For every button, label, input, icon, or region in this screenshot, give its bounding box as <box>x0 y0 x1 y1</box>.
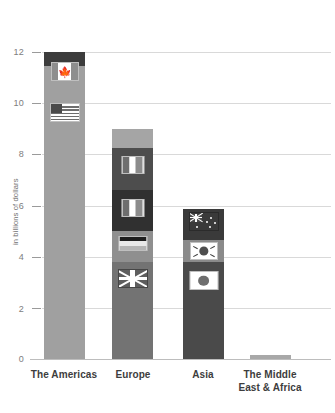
y-tick-mark-2 <box>32 308 41 309</box>
y-tick-label-2: 2 <box>0 305 24 314</box>
au-flag-union-jack <box>190 214 202 222</box>
au-flag-icon <box>189 212 219 231</box>
stacked-bar-chart: in billions of dollars 12 10 8 6 4 2 0 <box>0 0 335 413</box>
kr-flag-trigram <box>210 253 214 256</box>
fr-flag-band <box>122 200 129 216</box>
bar-asia[interactable] <box>183 209 224 359</box>
fr-flag-icon <box>121 199 144 217</box>
y-tick-label-8: 8 <box>0 150 24 159</box>
au-flag-star <box>196 226 198 228</box>
de-flag-row <box>119 246 146 250</box>
fr-flag-band <box>136 200 143 216</box>
jp-flag-icon <box>189 271 218 290</box>
bar-europe[interactable] <box>112 129 153 359</box>
ca-flag-icon: 🍁 <box>51 62 79 81</box>
bar-the-americas[interactable]: 🍁 <box>44 52 85 359</box>
us-flag-icon <box>50 103 80 122</box>
x-label-the-middle-east-and-africa: The Middle East & Africa <box>215 369 325 394</box>
plot-area: 🍁 <box>30 0 335 413</box>
y-tick-label-10: 10 <box>0 99 24 108</box>
it-flag-band <box>136 157 143 173</box>
de-flag-icon <box>118 236 147 251</box>
y-tick-label-6: 6 <box>0 202 24 211</box>
gridline-6 <box>42 206 331 207</box>
x-label-mea-line1: The Middle <box>215 369 325 382</box>
us-flag-stripe <box>51 119 79 121</box>
y-tick-mark-4 <box>32 257 41 258</box>
gridline-12 <box>42 52 331 53</box>
kr-flag-icon <box>190 242 218 260</box>
y-tick-label-0: 0 <box>0 355 24 364</box>
jp-flag-disc <box>198 275 209 286</box>
au-flag-star <box>209 226 211 228</box>
maple-leaf-icon: 🍁 <box>58 66 72 77</box>
gridline-8 <box>42 154 331 155</box>
kr-flag-taeguk <box>199 247 208 256</box>
fr-flag-band <box>129 200 136 216</box>
it-flag-band <box>129 157 136 173</box>
x-label-mea-line2: East & Africa <box>215 382 325 395</box>
y-tick-mark-10 <box>32 103 41 104</box>
y-tick-mark-6 <box>32 206 41 207</box>
au-flag-star <box>210 217 212 219</box>
y-axis-title: in billions of dollars <box>11 178 20 245</box>
bar-the-middle-east-and-africa[interactable] <box>250 355 291 359</box>
au-flag-star <box>206 221 208 223</box>
kr-flag-trigram <box>193 245 197 248</box>
it-flag-band <box>122 157 129 173</box>
au-flag-star <box>214 222 216 224</box>
gb-flag-icon <box>118 269 148 288</box>
x-axis-baseline <box>30 359 331 360</box>
gb-flag-cross <box>130 270 136 287</box>
segment-the-middle-east-and-africa[interactable] <box>250 355 291 359</box>
au-flag-cross <box>195 214 197 222</box>
y-tick-mark-12 <box>32 52 41 53</box>
y-tick-label-4: 4 <box>0 253 24 262</box>
y-tick-mark-8 <box>32 154 41 155</box>
us-flag-stripe <box>51 116 79 118</box>
gridline-10 <box>42 103 331 104</box>
ca-flag-band-right <box>71 63 77 80</box>
kr-flag-trigram <box>210 245 214 248</box>
kr-flag-trigram <box>193 253 197 256</box>
it-flag-icon <box>121 156 144 174</box>
y-tick-label-12: 12 <box>0 48 24 57</box>
segment-other-europe[interactable] <box>112 129 153 148</box>
us-flag-canton <box>51 104 63 113</box>
